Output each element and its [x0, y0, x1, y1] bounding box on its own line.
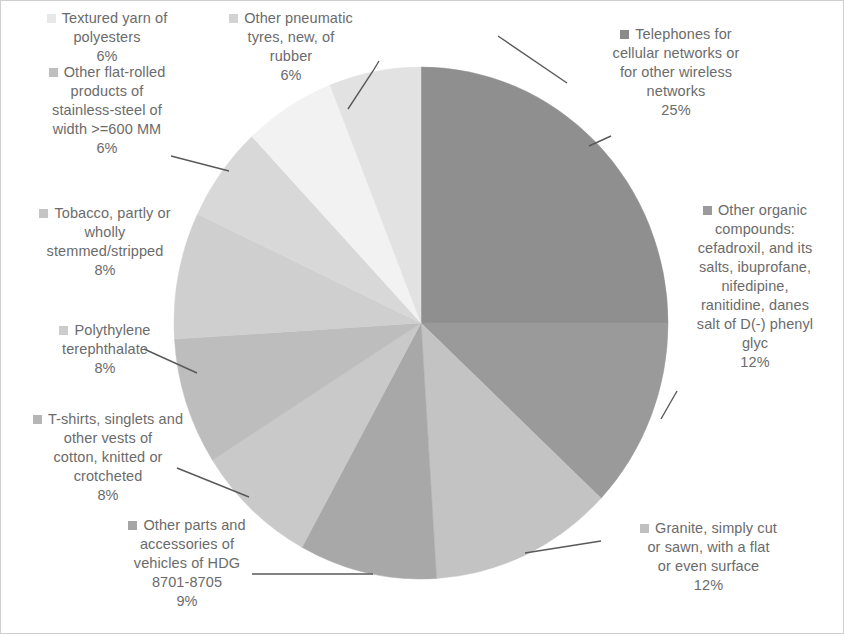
label-text-vehicle-parts-line-3: 8701-8705: [89, 573, 285, 592]
label-text-granite-line-1: or sawn, with a flat: [601, 538, 816, 557]
label-vehicle-parts: Other parts and accessories of vehicles …: [89, 516, 285, 611]
label-text-tshirts-line-0: T-shirts, singlets and: [48, 411, 183, 427]
label-text-telephones-line-3: networks: [561, 82, 791, 101]
label-text-organic-compounds-line-5: ranitidine, danes: [669, 296, 841, 315]
label-text-tobacco-line-0: Tobacco, partly or: [54, 205, 170, 221]
legend-swatch-tobacco: [39, 209, 48, 218]
label-pneumatic-tyres: Other pneumatic tyres, new, of rubber 6%: [196, 9, 386, 85]
label-text-pneumatic-tyres-line-0: Other pneumatic: [244, 10, 353, 26]
legend-swatch-organic-compounds: [703, 206, 712, 215]
label-text-stainless-steel-line-0: Other flat-rolled: [64, 64, 166, 80]
label-text-telephones-line-2: for other wireless: [561, 63, 791, 82]
legend-swatch-tshirts: [33, 415, 42, 424]
chart-page: Textured yarn of polyesters 6% Other pne…: [0, 0, 844, 634]
label-text-tshirts-line-2: cotton, knitted or: [5, 448, 211, 467]
label-granite: Granite, simply cut or sawn, with a flat…: [601, 519, 816, 595]
legend-swatch-telephones: [620, 30, 629, 39]
label-text-organic-compounds-line-3: salts, ibuprofane,: [669, 258, 841, 277]
label-percent-tshirts: 8%: [5, 486, 211, 505]
label-stainless-steel: Other flat-rolled products of stainless-…: [7, 63, 207, 158]
label-percent-vehicle-parts: 9%: [89, 592, 285, 611]
label-text-organic-compounds-line-7: glyc: [669, 334, 841, 353]
label-text-tobacco-line-2: stemmed/stripped: [7, 242, 203, 261]
label-text-granite-line-2: or even surface: [601, 557, 816, 576]
leader-line-organic-compounds: [661, 391, 677, 419]
label-text-organic-compounds-line-1: compounds:: [669, 220, 841, 239]
legend-swatch-stainless-steel: [49, 68, 58, 77]
leader-line-textured-yarn: [498, 36, 567, 83]
legend-swatch-pneumatic-tyres: [229, 14, 238, 23]
label-tshirts: T-shirts, singlets and other vests of co…: [5, 410, 211, 505]
label-text-telephones-line-0: Telephones for: [635, 26, 732, 42]
legend-swatch-textured-yarn: [47, 14, 56, 23]
legend-swatch-vehicle-parts: [128, 521, 137, 530]
label-text-tshirts-line-1: other vests of: [5, 429, 211, 448]
label-text-textured-yarn-line-0: Textured yarn of: [62, 10, 168, 26]
label-text-textured-yarn-line-1: polyesters: [7, 28, 207, 47]
label-text-pneumatic-tyres-line-1: tyres, new, of: [196, 28, 386, 47]
label-text-stainless-steel-line-3: width >=600 MM: [7, 120, 207, 139]
label-telephones: Telephones for cellular networks or for …: [561, 25, 791, 120]
label-text-organic-compounds-line-0: Other organic: [718, 202, 807, 218]
label-text-polythylene-line-1: terephthalate: [7, 340, 203, 359]
leader-line-stainless-steel: [171, 156, 229, 171]
label-tobacco: Tobacco, partly or wholly stemmed/stripp…: [7, 204, 203, 280]
label-text-stainless-steel-line-1: products of: [7, 82, 207, 101]
legend-swatch-polythylene: [59, 326, 68, 335]
label-textured-yarn: Textured yarn of polyesters 6%: [7, 9, 207, 66]
label-text-vehicle-parts-line-0: Other parts and: [143, 517, 245, 533]
label-percent-polythylene: 8%: [7, 359, 203, 378]
label-text-tobacco-line-1: wholly: [7, 223, 203, 242]
label-text-polythylene-line-0: Polythylene: [74, 322, 150, 338]
label-organic-compounds: Other organic compounds: cefadroxil, and…: [669, 201, 841, 372]
label-text-vehicle-parts-line-2: vehicles of HDG: [89, 554, 285, 573]
label-text-organic-compounds-line-6: salt of D(-) phenyl: [669, 315, 841, 334]
label-text-granite-line-0: Granite, simply cut: [655, 520, 777, 536]
label-percent-granite: 12%: [601, 576, 816, 595]
label-text-stainless-steel-line-2: stainless-steel of: [7, 101, 207, 120]
label-percent-organic-compounds: 12%: [669, 353, 841, 372]
label-text-telephones-line-1: cellular networks or: [561, 44, 791, 63]
label-text-organic-compounds-line-4: nifedipine,: [669, 277, 841, 296]
label-text-pneumatic-tyres-line-2: rubber: [196, 47, 386, 66]
label-percent-stainless-steel: 6%: [7, 139, 207, 158]
label-percent-telephones: 25%: [561, 101, 791, 120]
label-percent-tobacco: 8%: [7, 261, 203, 280]
label-text-organic-compounds-line-2: cefadroxil, and its: [669, 239, 841, 258]
legend-swatch-granite: [640, 524, 649, 533]
label-polythylene: Polythylene terephthalate 8%: [7, 321, 203, 378]
label-percent-pneumatic-tyres: 6%: [196, 66, 386, 85]
label-text-vehicle-parts-line-1: accessories of: [89, 535, 285, 554]
label-text-tshirts-line-3: crotcheted: [5, 467, 211, 486]
